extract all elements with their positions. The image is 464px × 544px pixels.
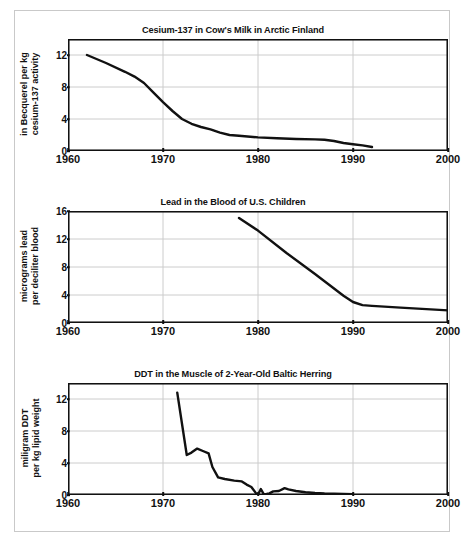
y-axis-label-line2: per kg lipid weight bbox=[30, 398, 41, 477]
plot-svg bbox=[68, 383, 448, 495]
plot-svg bbox=[68, 211, 448, 323]
y-tick-labels: 04812 bbox=[43, 383, 67, 493]
chart-ddt-herring: DDT in the Muscle of 2-Year-Old Baltic H… bbox=[15, 369, 451, 521]
y-tick-label: 8 bbox=[45, 262, 67, 273]
x-tick-mark bbox=[447, 320, 449, 324]
y-tick-label: 4 bbox=[45, 114, 67, 125]
y-axis-label: miligram DDT per kg lipid weight bbox=[17, 383, 43, 493]
x-tick-mark bbox=[352, 148, 354, 152]
figure-container: Cesium-137 in Cow's Milk in Arctic Finla… bbox=[14, 10, 450, 532]
x-tick-labels: 19601970198019902000 bbox=[15, 323, 451, 341]
y-axis-label-line2: cesium-137 activity bbox=[30, 52, 41, 136]
chart-blood-lead: Lead in the Blood of U.S. Children micro… bbox=[15, 197, 451, 349]
x-tick-label: 1960 bbox=[56, 153, 80, 165]
x-tick-label: 1980 bbox=[246, 153, 270, 165]
y-tick-label: 4 bbox=[45, 458, 67, 469]
plot-svg bbox=[68, 39, 448, 151]
y-axis-label: in Becquerel per kg cesium-137 activity bbox=[17, 39, 43, 149]
x-tick-label: 1960 bbox=[56, 325, 80, 337]
y-tick-labels: 04812 bbox=[43, 39, 67, 149]
x-tick-mark bbox=[162, 492, 164, 496]
x-tick-label: 2000 bbox=[436, 153, 460, 165]
x-tick-label: 1990 bbox=[341, 497, 365, 509]
x-tick-mark bbox=[257, 148, 259, 152]
x-tick-mark bbox=[67, 492, 69, 496]
y-tick-label: 12 bbox=[45, 234, 67, 245]
y-axis-label-line1: in Becquerel per kg bbox=[19, 52, 30, 136]
y-tick-labels: 0481216 bbox=[43, 211, 67, 321]
plot-area: in Becquerel per kg cesium-137 activity … bbox=[15, 39, 451, 169]
y-axis-label: micrograms lead per deciliter blood bbox=[17, 211, 43, 321]
x-tick-mark bbox=[447, 148, 449, 152]
x-tick-label: 1970 bbox=[151, 497, 175, 509]
y-axis-label-line1: miligram DDT bbox=[19, 398, 30, 477]
y-tick-label: 8 bbox=[45, 82, 67, 93]
x-tick-mark bbox=[257, 492, 259, 496]
x-tick-mark bbox=[257, 320, 259, 324]
y-tick-label: 8 bbox=[45, 426, 67, 437]
chart-title: DDT in the Muscle of 2-Year-Old Baltic H… bbox=[15, 369, 451, 379]
x-tick-mark bbox=[352, 492, 354, 496]
y-tick-label: 12 bbox=[45, 50, 67, 61]
y-tick-label: 4 bbox=[45, 290, 67, 301]
x-tick-labels: 19601970198019902000 bbox=[15, 495, 451, 513]
y-tick-label: 16 bbox=[45, 206, 67, 217]
y-tick-label: 12 bbox=[45, 394, 67, 405]
y-axis-label-line1: micrograms lead bbox=[19, 227, 30, 305]
x-tick-label: 2000 bbox=[436, 325, 460, 337]
x-tick-mark bbox=[162, 320, 164, 324]
x-tick-label: 1970 bbox=[151, 153, 175, 165]
x-tick-label: 1990 bbox=[341, 153, 365, 165]
x-tick-mark bbox=[447, 492, 449, 496]
x-tick-mark bbox=[67, 148, 69, 152]
chart-title: Lead in the Blood of U.S. Children bbox=[15, 197, 451, 207]
x-tick-mark bbox=[352, 320, 354, 324]
y-axis-label-line2: per deciliter blood bbox=[30, 227, 41, 305]
x-tick-labels: 19601970198019902000 bbox=[15, 151, 451, 169]
x-tick-label: 1990 bbox=[341, 325, 365, 337]
x-tick-mark bbox=[162, 148, 164, 152]
x-tick-label: 1980 bbox=[246, 497, 270, 509]
x-tick-label: 2000 bbox=[436, 497, 460, 509]
plot-area: miligram DDT per kg lipid weight 04812 1… bbox=[15, 383, 451, 513]
plot-area: micrograms lead per deciliter blood 0481… bbox=[15, 211, 451, 341]
x-tick-label: 1980 bbox=[246, 325, 270, 337]
x-tick-label: 1970 bbox=[151, 325, 175, 337]
chart-title: Cesium-137 in Cow's Milk in Arctic Finla… bbox=[15, 25, 451, 35]
x-tick-label: 1960 bbox=[56, 497, 80, 509]
chart-cesium-137: Cesium-137 in Cow's Milk in Arctic Finla… bbox=[15, 25, 451, 177]
x-tick-mark bbox=[67, 320, 69, 324]
